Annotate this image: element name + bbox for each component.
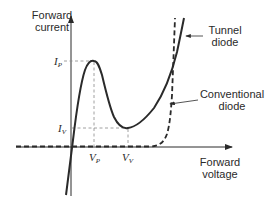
conventional-diode-curve: [16, 18, 175, 147]
peak-current-symbol: IP: [54, 56, 62, 71]
valley-voltage-symbol: VV: [122, 152, 133, 167]
valley-current-symbol: IV: [58, 123, 66, 138]
x-axis-label: Forward voltage: [195, 156, 245, 180]
y-axis-label: Forward current: [27, 9, 77, 33]
tunnel-diode-curve: [66, 18, 184, 195]
tunnel-diode-label: Tunnel diode: [205, 24, 245, 48]
peak-voltage-symbol: VP: [89, 152, 100, 167]
iv-characteristic-diagram: Forward current Forward voltage Tunnel d…: [0, 0, 279, 207]
conventional-diode-label: Conventional diode: [196, 88, 268, 112]
conventional-diode-leader: [170, 100, 198, 104]
